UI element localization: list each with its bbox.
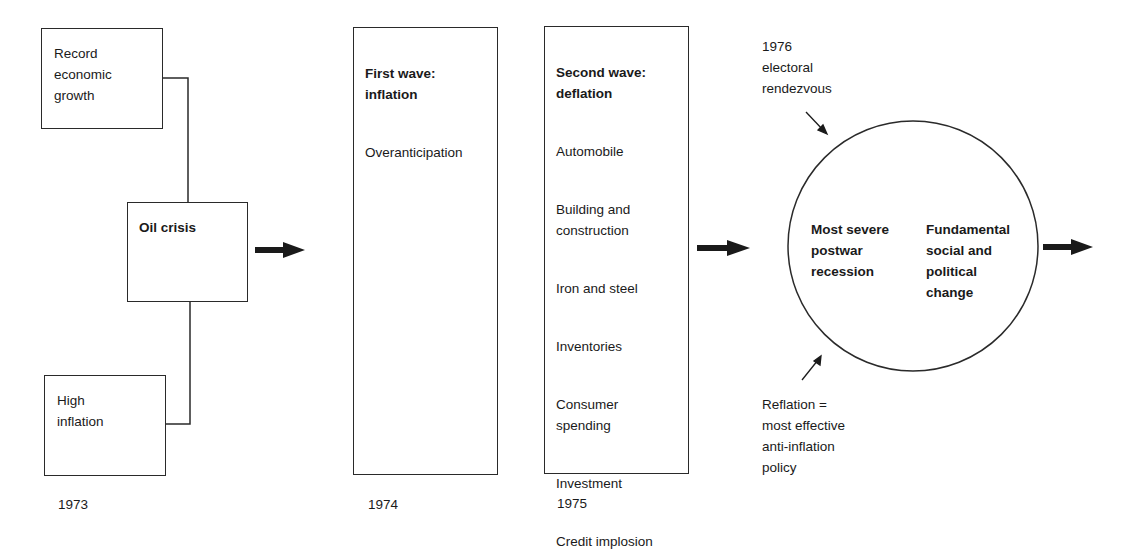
second-wave-item-inventories: Inventories	[556, 336, 653, 357]
high-inflation-box: High inflation	[44, 375, 166, 476]
year-1973-label: 1973	[58, 497, 88, 512]
high-inflation-label: High inflation	[57, 390, 104, 432]
first-wave-box: First wave: inflation Overanticipation	[353, 27, 498, 475]
second-wave-item-investment: Investment	[556, 473, 653, 494]
second-wave-title: Second wave: deflation	[556, 62, 653, 104]
record-growth-box: Record economic growth	[41, 28, 163, 129]
year-1974-label: 1974	[368, 497, 398, 512]
second-wave-item-building: Building and construction	[556, 199, 653, 241]
second-wave-item-iron-steel: Iron and steel	[556, 278, 653, 299]
second-wave-item-credit: Credit implosion	[556, 531, 653, 552]
electoral-rendezvous-annotation: 1976 electoral rendezvous	[762, 36, 832, 99]
second-wave-item-automobile: Automobile	[556, 141, 653, 162]
second-wave-box: Second wave: deflation Automobile Buildi…	[544, 26, 689, 474]
second-wave-item-consumer: Consumer spending	[556, 394, 653, 436]
social-change-label: Fundamental social and political change	[926, 219, 1010, 303]
record-growth-label: Record economic growth	[54, 43, 112, 106]
first-wave-title: First wave: inflation	[365, 63, 463, 105]
oil-crisis-box: Oil crisis	[127, 202, 248, 302]
oil-crisis-label: Oil crisis	[139, 217, 196, 238]
reflation-annotation: Reflation = most effective anti-inflatio…	[762, 394, 845, 478]
recession-label: Most severe postwar recession	[811, 219, 889, 282]
first-wave-item: Overanticipation	[365, 142, 463, 163]
year-1975-label: 1975	[557, 496, 587, 511]
